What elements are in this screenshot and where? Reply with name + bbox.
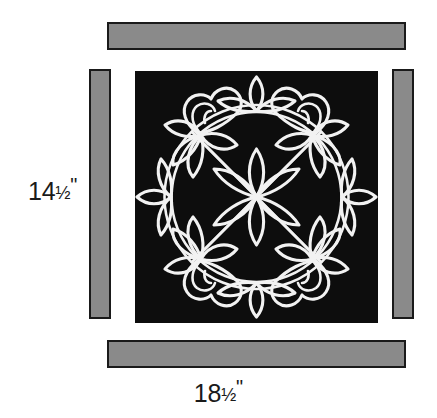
floral-motif	[135, 71, 378, 323]
width-dimension-label: 18½"	[0, 376, 437, 408]
width-inch-mark: "	[236, 376, 243, 398]
top-trefoil-icon	[218, 77, 295, 112]
right-trefoil-icon	[341, 159, 376, 235]
bottom-left-rose-icon	[165, 217, 241, 306]
bottom-right-rose-icon	[272, 217, 348, 306]
bottom-trefoil-icon	[218, 282, 295, 317]
top-right-rose-icon	[272, 88, 348, 177]
appliqued-floral-block	[135, 71, 378, 323]
bottom-border-strip	[107, 340, 406, 368]
top-left-rose-icon	[165, 88, 241, 177]
width-fraction: ½	[221, 385, 236, 405]
height-dimension-label: 14½"	[28, 174, 77, 206]
height-fraction: ½	[55, 183, 70, 203]
top-border-strip	[107, 22, 406, 50]
width-whole-number: 18	[194, 379, 221, 407]
left-border-strip	[89, 69, 111, 319]
center-flower-icon	[214, 149, 299, 245]
quilt-block-diagram: 14½" 18½"	[0, 0, 437, 418]
right-border-strip	[392, 69, 414, 319]
height-whole-number: 14	[28, 177, 55, 205]
height-inch-mark: "	[70, 174, 77, 196]
left-trefoil-icon	[137, 159, 172, 235]
